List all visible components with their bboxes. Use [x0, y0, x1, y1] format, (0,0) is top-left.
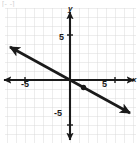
y-tick-label-neg5: -5	[54, 109, 62, 118]
marked-point	[81, 85, 86, 90]
y-axis-label: y	[68, 5, 72, 13]
y-tick-label-5: 5	[59, 33, 64, 42]
coordinate-plane-figure: [- -] 5 -5 -5 5	[0, 0, 138, 143]
x-tick-label-neg5: -5	[21, 80, 29, 89]
coordinate-grid-plot	[0, 0, 138, 143]
x-tick-label-5: 5	[102, 80, 107, 89]
x-axis-label: x	[132, 76, 136, 84]
